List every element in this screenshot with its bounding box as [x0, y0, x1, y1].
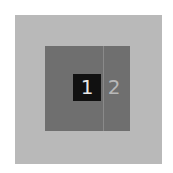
tile-2[interactable]: 2 [106, 74, 122, 101]
tile-1-selected[interactable]: 1 [73, 74, 101, 101]
divider-line [103, 46, 104, 131]
